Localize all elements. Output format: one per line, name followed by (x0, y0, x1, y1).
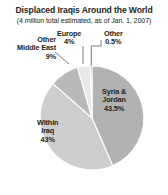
leader-line-other-middle-east (55, 52, 69, 64)
pie-label-europe: Europe 4% (57, 30, 81, 47)
pie-graphic (0, 0, 168, 195)
pie-label-within-iraq: Within Iraq 43% (37, 119, 58, 144)
pie-label-other: Other 0.5% (104, 30, 123, 47)
pie-label-other-middle-east: Other Middle East 9% (17, 36, 56, 61)
pie-chart-figure: Displaced Iraqis Around the World (4 mil… (0, 0, 168, 195)
pie-label-within-iraq-percent: 43% (37, 136, 58, 144)
pie-label-syria-jordan: Syria & Jordan 43.5% (102, 88, 126, 113)
pie-label-other-middle-east-percent: 9% (17, 53, 56, 61)
pie-label-europe-percent: 4% (57, 38, 81, 46)
pie-label-other-percent: 0.5% (104, 38, 123, 46)
pie-label-syria-jordan-percent: 43.5% (102, 105, 126, 113)
